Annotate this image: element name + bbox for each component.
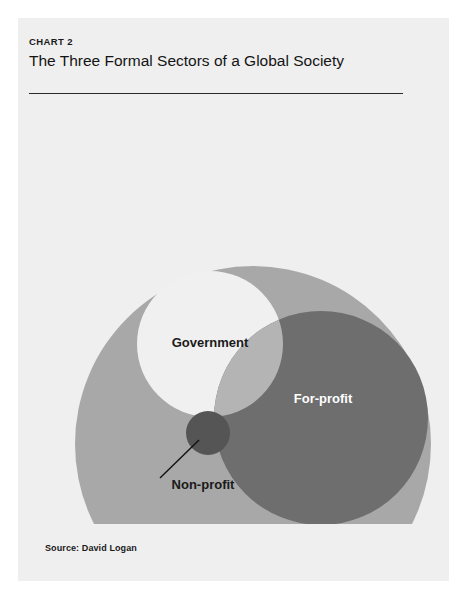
non-profit-circle	[186, 411, 230, 455]
source-attribution: Source: David Logan	[45, 542, 137, 554]
chart-number-label: CHART 2	[29, 36, 403, 48]
chart-page: CHART 2 The Three Formal Sectors of a Gl…	[0, 0, 467, 612]
page-title: The Three Formal Sectors of a Global Soc…	[29, 51, 403, 70]
venn-diagram-svg: Government For-profit Non-profit Informa…	[18, 104, 449, 524]
for-profit-label: For-profit	[294, 391, 353, 406]
government-label: Government	[172, 335, 249, 350]
non-profit-label: Non-profit	[172, 477, 235, 492]
title-divider	[29, 93, 403, 94]
venn-diagram-figure: Government For-profit Non-profit Informa…	[18, 104, 449, 524]
chart-header: CHART 2 The Three Formal Sectors of a Gl…	[29, 36, 403, 70]
